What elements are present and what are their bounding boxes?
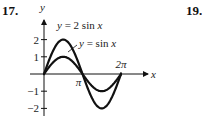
y-tick-label: −2 <box>27 102 39 114</box>
y-tick-label: −1 <box>27 85 39 97</box>
y-tick-label: 1 <box>34 51 40 63</box>
x-tick-label: 2π <box>115 58 127 70</box>
series-label-two-sin-x: y = 2 sin x <box>56 19 102 31</box>
y-tick-label: 2 <box>34 34 40 46</box>
y-axis-label: y <box>39 1 45 13</box>
series-label-sin-x: y = sin x <box>78 37 116 49</box>
sine-chart: x y 21−1−2 π2π y = 2 sin xy = sin x <box>0 0 202 116</box>
x-axis-label: x <box>150 68 156 80</box>
x-tick-label: π <box>76 76 82 88</box>
